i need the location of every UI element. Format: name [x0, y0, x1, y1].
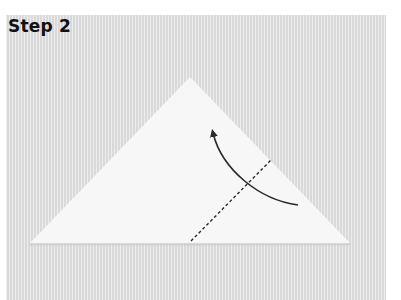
origami-diagram: [0, 0, 401, 300]
paper-triangle: [30, 77, 350, 243]
